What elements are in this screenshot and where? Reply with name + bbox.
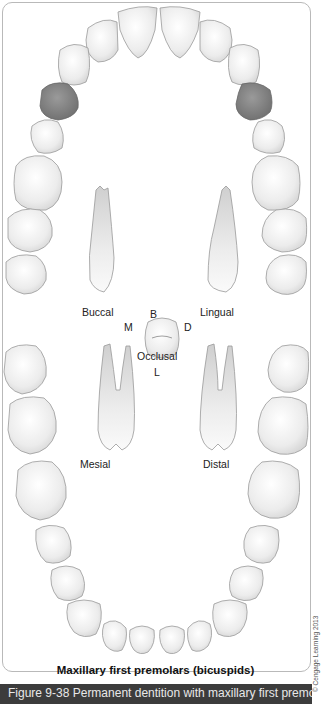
- tooth-first-premolar-right-highlighted: [236, 83, 272, 120]
- tooth-third-molar-right: [266, 255, 307, 295]
- tooth-first-molar-right: [252, 156, 300, 211]
- tooth-lower-first-molar-left: [16, 461, 66, 520]
- tooth-lower-second-premolar-left: [36, 525, 71, 563]
- tooth-buccal-view: [89, 186, 114, 292]
- tooth-third-molar-left: [6, 255, 46, 294]
- view-label-lingual: Lingual: [200, 306, 234, 318]
- tooth-lower-third-molar-right: [268, 345, 309, 392]
- upper-arch: [6, 7, 307, 295]
- tooth-lower-central-incisor-left: [130, 626, 155, 654]
- tooth-distal-view: [200, 344, 237, 450]
- tooth-second-premolar-right: [253, 120, 285, 154]
- tooth-lingual-view: [208, 186, 238, 292]
- tooth-lower-third-molar-left: [4, 345, 46, 394]
- orientation-label-mesial: M: [124, 321, 133, 333]
- tooth-canine-right: [228, 44, 259, 85]
- tooth-lower-first-premolar-right: [229, 566, 263, 601]
- view-label-occlusal: Occlusal: [137, 350, 177, 362]
- tooth-lower-second-molar-left: [8, 397, 56, 454]
- tooth-lower-lateral-incisor-left: [102, 621, 126, 652]
- tooth-second-premolar-left: [31, 120, 63, 154]
- tooth-lower-lateral-incisor-right: [188, 621, 212, 652]
- copyright-credit: © Cengage Learning 2013: [312, 616, 319, 692]
- tooth-lateral-incisor-left: [86, 20, 118, 62]
- tooth-second-molar-left: [8, 209, 52, 252]
- tooth-lower-first-molar-right: [248, 461, 300, 518]
- tooth-second-molar-right: [262, 209, 307, 252]
- tooth-central-incisor-left: [118, 7, 157, 58]
- orientation-label-buccal: B: [150, 308, 157, 320]
- lower-arch: [4, 345, 309, 654]
- tooth-canine-left: [58, 44, 89, 85]
- tooth-lower-second-premolar-right: [244, 525, 279, 563]
- figure-caption: Figure 9-38 Permanent dentition with max…: [0, 684, 312, 704]
- tooth-first-molar-left: [14, 156, 62, 211]
- premolar-detail-views: [89, 186, 238, 450]
- tooth-mesial-view: [98, 344, 135, 450]
- tooth-lower-first-premolar-left: [51, 566, 85, 601]
- tooth-lateral-incisor-right: [200, 20, 232, 62]
- tooth-lower-central-incisor-right: [160, 626, 185, 654]
- tooth-lower-canine-right: [213, 600, 247, 637]
- view-label-distal: Distal: [203, 458, 229, 470]
- figure-title: Maxillary first premolars (bicuspids): [0, 664, 311, 676]
- orientation-label-distal: D: [184, 321, 192, 333]
- orientation-label-lingual: L: [154, 366, 160, 378]
- tooth-first-premolar-left-highlighted: [40, 83, 78, 120]
- tooth-lower-canine-left: [67, 600, 101, 637]
- view-label-buccal: Buccal: [82, 306, 114, 318]
- view-label-mesial: Mesial: [80, 458, 110, 470]
- tooth-lower-second-molar-right: [258, 397, 308, 454]
- tooth-central-incisor-right: [160, 7, 200, 58]
